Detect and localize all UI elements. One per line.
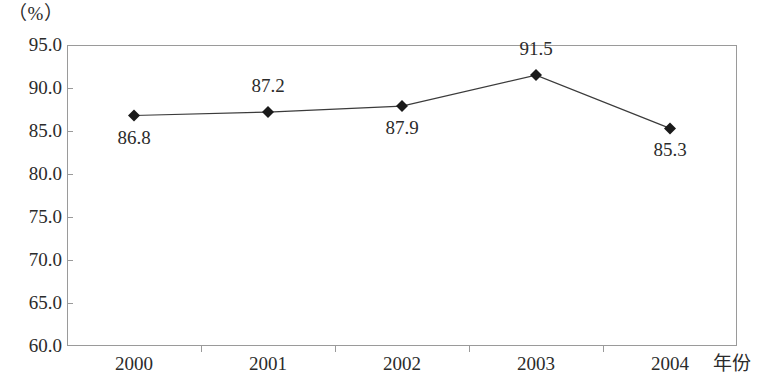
data-point-marker (396, 100, 408, 112)
data-point-label: 91.5 (491, 39, 581, 59)
data-series-layer (0, 0, 765, 379)
data-point-label: 85.3 (625, 140, 715, 160)
data-point-label: 87.9 (357, 118, 447, 138)
data-point-marker (664, 122, 676, 134)
data-point-marker (128, 110, 140, 122)
line-chart: （%） 95.090.085.080.075.070.065.060.0 200… (0, 0, 765, 379)
data-point-label: 86.8 (89, 128, 179, 148)
data-point-label: 87.2 (223, 76, 313, 96)
data-point-marker (262, 106, 274, 118)
data-point-marker (530, 69, 542, 81)
